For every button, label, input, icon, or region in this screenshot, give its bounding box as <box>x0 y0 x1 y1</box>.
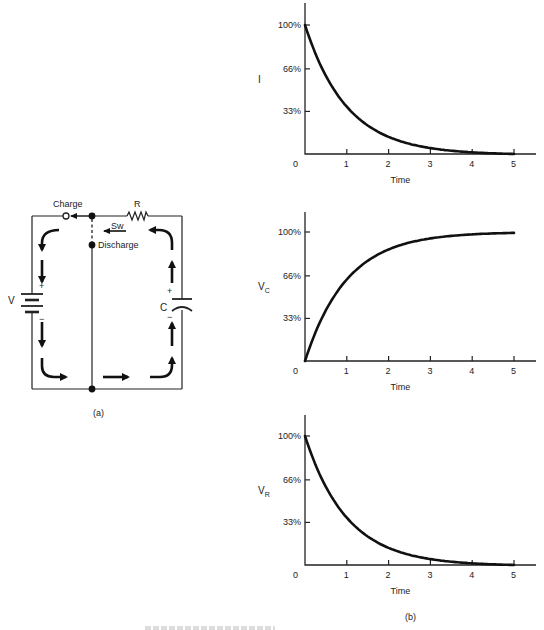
x-tick-label: 5 <box>511 159 516 169</box>
x-tick-label: 4 <box>469 366 474 376</box>
x-tick-label: 0 <box>293 159 298 169</box>
chart-vr: 012345Time33%66%100%VR <box>258 415 536 596</box>
x-axis-label: Time <box>391 175 411 185</box>
battery: V + − <box>8 281 44 324</box>
chart-axes <box>305 415 536 565</box>
discharge-contact <box>89 242 96 249</box>
chart-axes <box>305 3 536 154</box>
discharge-label: Discharge <box>98 240 139 250</box>
battery-label: V <box>8 295 15 306</box>
x-axis-label: Time <box>391 586 411 596</box>
x-tick-label: 5 <box>511 570 516 580</box>
figure-caption-cutoff <box>145 626 275 630</box>
switch-label: Sw <box>111 221 124 231</box>
series-line-vr <box>305 436 514 565</box>
y-tick-label: 66% <box>283 475 301 485</box>
series-line-i <box>305 25 514 154</box>
y-axis-label: VR <box>258 485 270 498</box>
x-tick-label: 2 <box>386 159 391 169</box>
flow-arrow-top-right <box>150 230 172 250</box>
y-tick-label: 33% <box>283 313 301 323</box>
battery-plus-sign: + <box>39 281 44 291</box>
y-tick-label: 100% <box>278 431 301 441</box>
chart-vc: 012345Time33%66%100%VC <box>258 212 536 392</box>
switch-pivot-dot <box>89 213 96 220</box>
panel-a-label: (a) <box>93 408 104 418</box>
resistor: R <box>127 199 148 220</box>
x-tick-label: 1 <box>344 570 349 580</box>
x-tick-label: 1 <box>344 159 349 169</box>
resistor-label: R <box>134 199 141 209</box>
y-axis-label: I <box>258 74 261 85</box>
y-tick-label: 66% <box>283 64 301 74</box>
flow-arrow-top-left <box>42 230 59 250</box>
rc-time-response-charts: 012345Time33%66%100%I012345Time33%66%100… <box>258 3 536 596</box>
charge-contact <box>63 213 69 219</box>
rc-circuit-diagram: Charge Discharge Sw R V + − C + − <box>8 199 192 418</box>
capacitor: C + − <box>160 286 192 322</box>
x-tick-label: 3 <box>427 366 432 376</box>
bottom-junction-dot <box>89 386 96 393</box>
resistor-zigzag-icon <box>127 212 148 220</box>
x-tick-label: 0 <box>293 570 298 580</box>
x-tick-label: 2 <box>386 366 391 376</box>
y-tick-label: 100% <box>278 227 301 237</box>
flow-arrow-bottom-right <box>150 358 172 377</box>
capacitor-plus-sign: + <box>167 286 172 296</box>
x-tick-label: 4 <box>469 570 474 580</box>
flow-arrow-bottom-left <box>42 358 66 377</box>
x-tick-label: 0 <box>293 366 298 376</box>
current-flow-arrows <box>42 230 172 377</box>
series-line-vc <box>305 233 514 361</box>
x-tick-label: 4 <box>469 159 474 169</box>
chart-i: 012345Time33%66%100%I <box>258 3 536 185</box>
panel-b-label: (b) <box>405 612 416 622</box>
capacitor-minus-sign: − <box>167 312 172 322</box>
y-tick-label: 100% <box>278 20 301 30</box>
charge-label: Charge <box>53 199 83 209</box>
y-tick-label: 33% <box>283 517 301 527</box>
x-tick-label: 5 <box>511 366 516 376</box>
y-axis-label: VC <box>258 281 270 294</box>
x-tick-label: 3 <box>427 570 432 580</box>
x-tick-label: 1 <box>344 366 349 376</box>
x-tick-label: 3 <box>427 159 432 169</box>
switch: Charge Discharge Sw <box>53 199 139 250</box>
y-tick-label: 66% <box>283 271 301 281</box>
y-tick-label: 33% <box>283 106 301 116</box>
x-axis-label: Time <box>391 382 411 392</box>
x-tick-label: 2 <box>386 570 391 580</box>
